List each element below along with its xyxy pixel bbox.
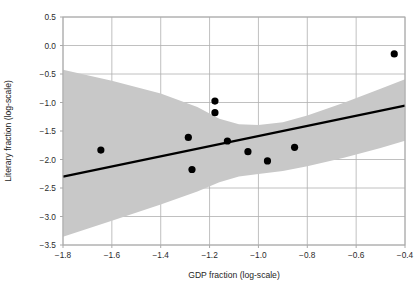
y-tick-label: −2.0 bbox=[40, 155, 57, 165]
y-tick-label: −2.5 bbox=[40, 183, 57, 193]
y-tick-label: −1.0 bbox=[40, 98, 57, 108]
data-point bbox=[244, 148, 251, 155]
x-tick-label: −1.6 bbox=[104, 250, 121, 260]
x-tick-label: −0.8 bbox=[299, 250, 316, 260]
scatter-plot-figure: −1.8−1.6−1.4−1.2−1.0−0.8−0.6−0.4 0.50.0−… bbox=[0, 0, 419, 287]
plot-canvas: −1.8−1.6−1.4−1.2−1.0−0.8−0.6−0.4 0.50.0−… bbox=[0, 0, 419, 287]
x-tick-label: −1.8 bbox=[55, 250, 72, 260]
y-tick-label: −3.5 bbox=[40, 240, 57, 250]
x-tick-label: −1.4 bbox=[153, 250, 170, 260]
x-tick-label: −1.0 bbox=[250, 250, 267, 260]
data-point bbox=[211, 109, 218, 116]
data-point bbox=[188, 166, 195, 173]
x-tick-label: −0.6 bbox=[348, 250, 365, 260]
y-tick-label: −1.5 bbox=[40, 126, 57, 136]
data-point bbox=[211, 97, 218, 104]
data-point bbox=[97, 146, 104, 153]
y-axis-title: Literary fraction (log-scale) bbox=[3, 80, 13, 182]
y-tick-label: 0.0 bbox=[44, 41, 56, 51]
data-point bbox=[264, 157, 271, 164]
y-tick-label: −3.0 bbox=[40, 212, 57, 222]
data-point bbox=[391, 50, 398, 57]
x-tick-label: −1.2 bbox=[201, 250, 218, 260]
data-point bbox=[291, 144, 298, 151]
y-tick-label: −0.5 bbox=[40, 69, 57, 79]
data-point bbox=[185, 134, 192, 141]
y-tick-label: 0.5 bbox=[44, 12, 56, 22]
x-axis-title: GDP fraction (log-scale) bbox=[188, 270, 280, 280]
data-point bbox=[224, 137, 231, 144]
x-tick-label: −0.4 bbox=[397, 250, 414, 260]
